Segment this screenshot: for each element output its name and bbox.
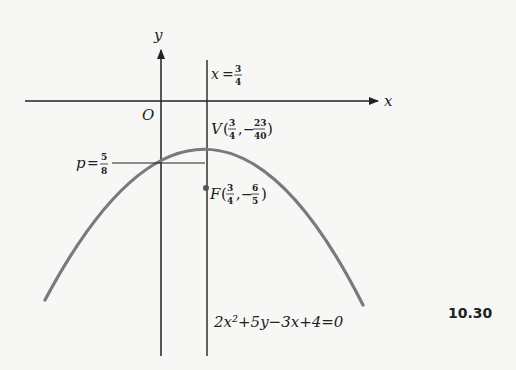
origin-label: O (142, 106, 154, 124)
svg-text:): ) (261, 185, 267, 203)
svg-text:3: 3 (229, 118, 235, 128)
svg-text:4: 4 (229, 131, 235, 141)
svg-text:40: 40 (254, 131, 267, 141)
parabola-figure: x y O x = 3 4 p = 5 8 V ( 3 4 , − 23 40 … (0, 0, 516, 370)
svg-text:−: − (241, 186, 253, 202)
svg-text:(: ( (221, 185, 227, 203)
focus-point (203, 185, 209, 191)
svg-text:=: = (87, 155, 99, 171)
svg-text:−: − (243, 121, 255, 137)
svg-text:4: 4 (227, 196, 233, 206)
svg-text:x: x (211, 66, 219, 82)
svg-text:5: 5 (252, 196, 258, 206)
parabola-curve (45, 149, 363, 305)
svg-text:=: = (222, 66, 234, 82)
p-label: p = 5 8 (76, 152, 108, 176)
svg-text:,: , (236, 186, 240, 202)
svg-text:(: ( (223, 120, 229, 138)
svg-text:3: 3 (235, 64, 241, 74)
figure-canvas: x y O x = 3 4 p = 5 8 V ( 3 4 , − 23 40 … (0, 0, 516, 370)
svg-text:p: p (76, 154, 86, 172)
figure-number: 10.30 (448, 305, 493, 321)
focus-label: F ( 3 4 , − 6 5 ) (209, 183, 267, 206)
svg-text:5: 5 (101, 152, 107, 162)
svg-text:6: 6 (252, 183, 258, 193)
svg-text:,: , (238, 121, 242, 137)
symmetry-line-label: x = 3 4 (211, 64, 242, 87)
vertex-label: V ( 3 4 , − 23 40 ) (211, 118, 273, 141)
y-axis-label: y (153, 26, 163, 44)
svg-text:23: 23 (254, 118, 267, 128)
svg-text:8: 8 (101, 166, 107, 176)
parabola-equation: 2x²+5y−3x+4=0 (213, 313, 344, 331)
svg-text:3: 3 (227, 183, 233, 193)
svg-text:): ) (267, 120, 273, 138)
x-axis-label: x (384, 92, 393, 110)
svg-text:F: F (209, 185, 221, 203)
svg-text:4: 4 (235, 77, 241, 87)
